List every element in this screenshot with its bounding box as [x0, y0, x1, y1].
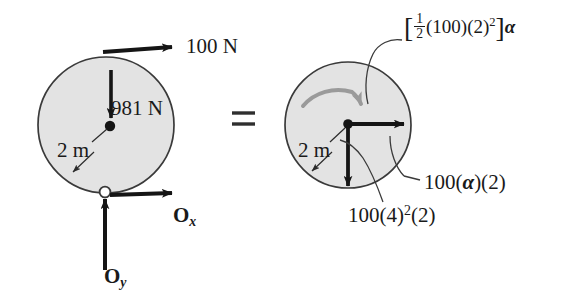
label-reaction-ox-base: O — [173, 203, 189, 227]
label-radius-left: 2 m — [57, 140, 89, 161]
alpha-symbol: α — [505, 16, 516, 37]
label-tangential-term: 100(α)(2) — [424, 172, 506, 193]
mechanics-figure: 100 N 981 N 2 m Ox Oy 2 m [12(100)(2)2]α… — [0, 0, 566, 297]
right-disk-group — [285, 40, 420, 202]
label-normal-term: 100(4)2(2) — [348, 204, 435, 226]
bracket-open: [ — [404, 14, 413, 42]
label-reaction-oy-subscript: y — [120, 275, 126, 290]
label-reaction-ox-subscript: x — [189, 214, 196, 229]
fraction-denominator: 2 — [414, 26, 425, 41]
fraction-numerator: 1 — [414, 12, 425, 26]
tangential-radius: 2 — [488, 170, 499, 194]
moment-radius-factor: (2) — [467, 16, 489, 37]
label-reaction-oy: Oy — [104, 266, 127, 290]
moment-mass-factor: (100) — [426, 16, 467, 37]
normal-exponent: 2 — [404, 203, 411, 218]
label-reaction-oy-base: O — [104, 264, 120, 288]
normal-omega: 4 — [387, 203, 398, 227]
label-radius-right: 2 m — [298, 140, 330, 161]
reaction-ox-arrow — [110, 193, 172, 195]
label-weight: 981 N — [111, 98, 163, 119]
fraction-one-half: 12 — [414, 12, 425, 41]
pin-support — [100, 187, 111, 198]
label-applied-force: 100 N — [186, 36, 238, 57]
normal-mass: 100 — [348, 203, 380, 227]
tangential-alpha: α — [463, 170, 475, 194]
tangential-mass: 100 — [424, 170, 456, 194]
bracket-close: ] — [496, 14, 505, 42]
normal-radius: 2 — [418, 203, 429, 227]
applied-force-100n-arrow — [103, 47, 172, 52]
tangential-label-leader — [404, 176, 420, 180]
equals-sign — [232, 113, 255, 124]
label-reaction-ox: Ox — [173, 205, 196, 229]
label-moment-term: [12(100)(2)2]α — [404, 12, 515, 42]
